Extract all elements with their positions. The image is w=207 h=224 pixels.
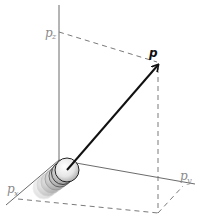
vector-label-p: p: [148, 46, 158, 60]
pz-projection-line: [59, 32, 157, 62]
svg-text:z: z: [51, 32, 57, 41]
svg-text:y: y: [186, 176, 192, 185]
momentum-vector-diagram: p p z p x p y: [0, 0, 207, 224]
label-py: p y: [180, 169, 192, 185]
momentum-vector-arrow: [67, 65, 158, 170]
label-pz: p z: [45, 26, 57, 41]
axes: [6, 5, 195, 205]
py-floor-line: [158, 186, 183, 213]
y-axis: [59, 160, 195, 184]
label-px: p x: [7, 182, 19, 198]
svg-text:x: x: [14, 189, 19, 198]
px-floor-line: [18, 199, 158, 213]
